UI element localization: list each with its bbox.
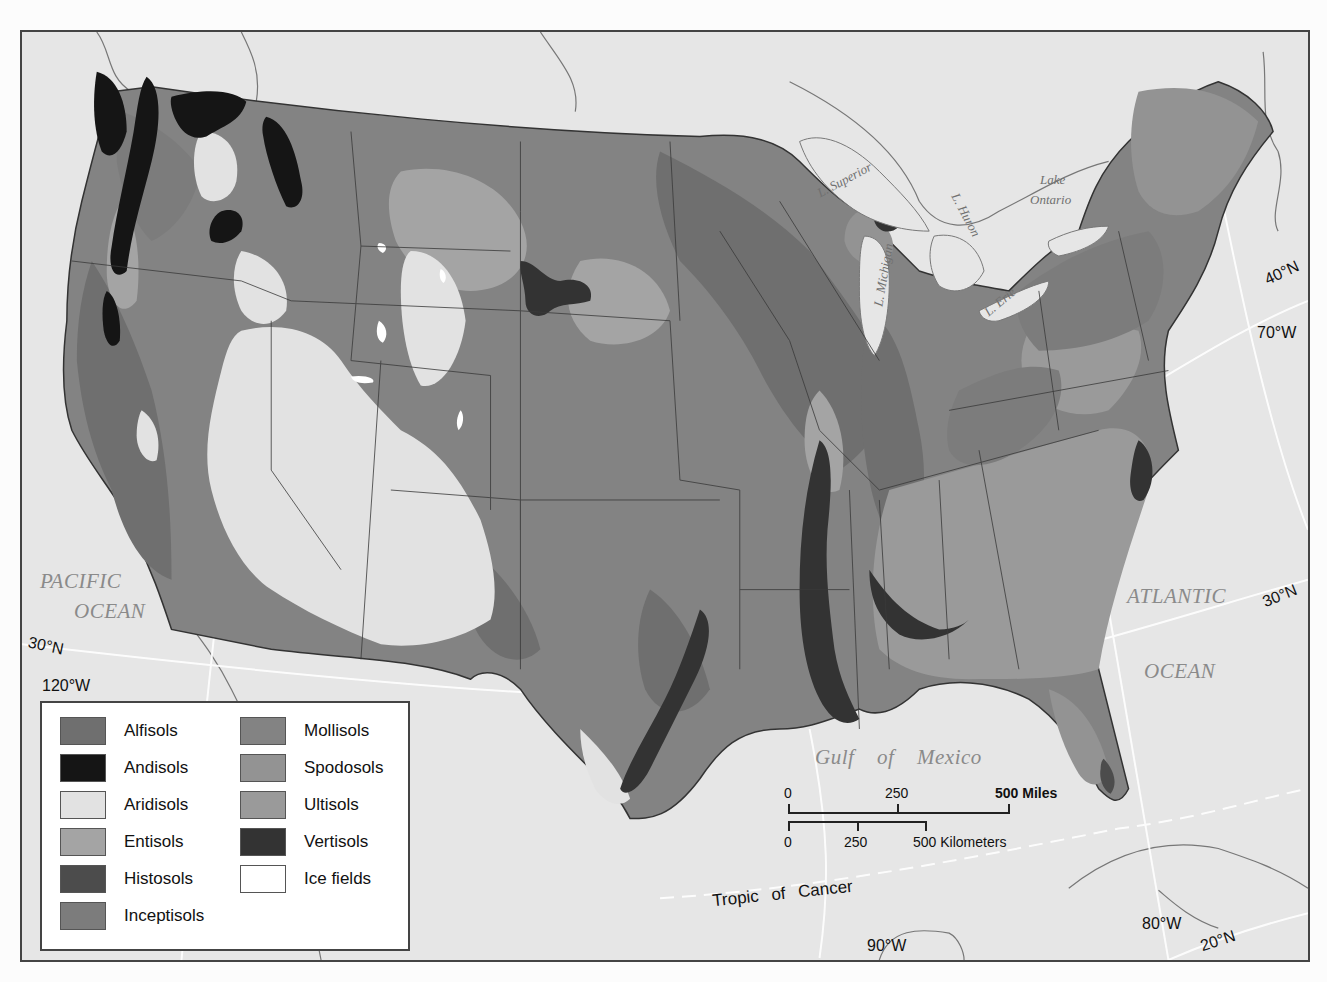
legend-label: Ice fields xyxy=(304,869,371,889)
lon-120w-label: 120°W xyxy=(42,677,90,695)
scale-km-0: 0 xyxy=(784,834,792,850)
scale-km-250: 250 xyxy=(844,834,867,850)
legend-item-aridisols: Aridisols xyxy=(60,791,188,819)
gulf-label-3: Mexico xyxy=(917,745,982,770)
legend-label: Ultisols xyxy=(304,795,359,815)
legend-label: Mollisols xyxy=(304,721,369,741)
map-frame: PACIFIC OCEAN ATLANTIC OCEAN Gulf of Mex… xyxy=(20,30,1310,962)
legend-label: Entisols xyxy=(124,832,184,852)
legend-label: Andisols xyxy=(124,758,188,778)
legend-item-histosols: Histosols xyxy=(60,865,193,893)
legend-label: Alfisols xyxy=(124,721,178,741)
scale-miles-0: 0 xyxy=(784,785,792,801)
legend-label: Histosols xyxy=(124,869,193,889)
scale-tick xyxy=(857,821,859,831)
pacific-ocean-label-2: OCEAN xyxy=(74,599,145,624)
legend-swatch xyxy=(60,828,106,856)
legend-item-vertisols: Vertisols xyxy=(240,828,368,856)
lake-ontario-label-1: Lake xyxy=(1040,172,1065,188)
legend-swatch xyxy=(240,865,286,893)
atlantic-ocean-label-2: OCEAN xyxy=(1144,659,1215,684)
legend-item-alfisols: Alfisols xyxy=(60,717,178,745)
legend-swatch xyxy=(240,754,286,782)
legend-item-ice-fields: Ice fields xyxy=(240,865,371,893)
legend-swatch xyxy=(240,717,286,745)
gulf-label-1: Gulf xyxy=(815,745,854,770)
legend-label: Spodosols xyxy=(304,758,383,778)
legend-swatch xyxy=(240,828,286,856)
legend: Alfisols Andisols Aridisols Entisols His… xyxy=(40,701,410,951)
legend-swatch xyxy=(60,717,106,745)
lon-90w-label: 90°W xyxy=(867,937,906,955)
scale-miles-500: 500 Miles xyxy=(995,785,1057,801)
scale-tick xyxy=(897,804,899,814)
lon-80w-label: 80°W xyxy=(1142,915,1181,933)
pacific-ocean-label: PACIFIC xyxy=(40,569,121,594)
legend-item-inceptisols: Inceptisols xyxy=(60,902,204,930)
legend-item-andisols: Andisols xyxy=(60,754,188,782)
legend-swatch xyxy=(240,791,286,819)
legend-swatch xyxy=(60,754,106,782)
legend-item-ultisols: Ultisols xyxy=(240,791,359,819)
scale-tick xyxy=(788,804,790,814)
scale-km-500: 500 Kilometers xyxy=(913,834,1006,850)
scale-tick xyxy=(1008,804,1010,814)
scale-tick xyxy=(925,821,927,831)
legend-swatch xyxy=(60,902,106,930)
legend-label: Inceptisols xyxy=(124,906,204,926)
lake-ontario-label-2: Ontario xyxy=(1030,192,1071,208)
legend-swatch xyxy=(60,865,106,893)
gulf-label-2: of xyxy=(877,745,894,770)
legend-item-mollisols: Mollisols xyxy=(240,717,369,745)
legend-label: Vertisols xyxy=(304,832,368,852)
atlantic-ocean-label: ATLANTIC xyxy=(1127,584,1226,609)
lon-70w-label: 70°W xyxy=(1257,324,1296,342)
legend-item-spodosols: Spodosols xyxy=(240,754,383,782)
legend-swatch xyxy=(60,791,106,819)
scale-miles-250: 250 xyxy=(885,785,908,801)
scale-tick xyxy=(788,821,790,831)
legend-item-entisols: Entisols xyxy=(60,828,184,856)
legend-label: Aridisols xyxy=(124,795,188,815)
